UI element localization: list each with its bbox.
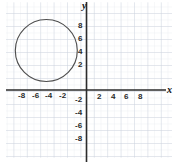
x-tick-label-4: 4 — [111, 93, 115, 101]
x-tick-label-2: 2 — [97, 93, 101, 101]
x-axis-label: x — [167, 85, 172, 95]
x-tick-label-6: 6 — [124, 93, 128, 101]
y-tick-label-8: 8 — [78, 22, 82, 30]
graph-figure: -8 -6 -4 -2 2 4 6 8 8 6 4 2 -2 -4 -6 -8 … — [0, 0, 176, 164]
y-tick-label-neg6: -6 — [75, 122, 82, 130]
x-tick-label-8: 8 — [138, 93, 142, 101]
coordinate-plane — [0, 0, 176, 164]
y-tick-label-neg4: -4 — [75, 109, 82, 117]
x-tick-label-neg8: -8 — [18, 92, 25, 100]
y-tick-label-2: 2 — [78, 61, 82, 69]
major-grid — [6, 3, 172, 158]
y-tick-label-neg8: -8 — [75, 135, 82, 143]
y-tick-label-neg2: -2 — [75, 96, 82, 104]
x-tick-label-neg6: -6 — [32, 92, 39, 100]
y-tick-label-4: 4 — [78, 48, 82, 56]
y-axis-label: y — [82, 1, 86, 11]
x-tick-label-neg4: -4 — [45, 92, 52, 100]
x-tick-label-neg2: -2 — [59, 92, 66, 100]
y-tick-label-6: 6 — [78, 35, 82, 43]
